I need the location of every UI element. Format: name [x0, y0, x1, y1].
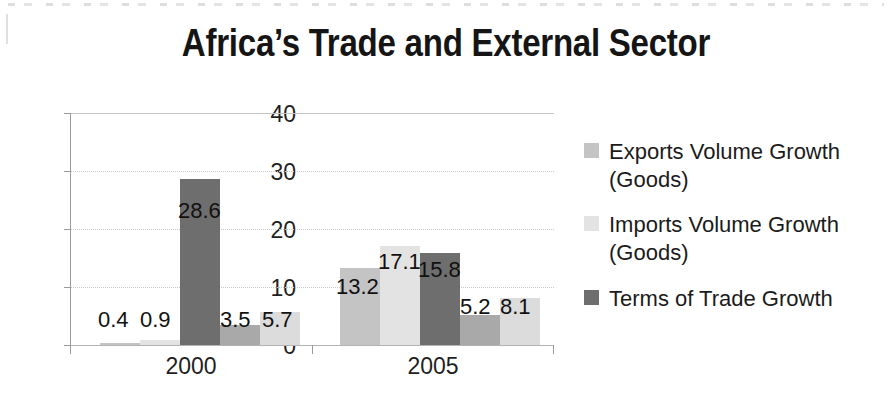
y-tick-20: [64, 229, 70, 230]
legend-label-exports: Exports Volume Growth (Goods): [609, 138, 879, 193]
bar-label-2005-series-5: 8.1: [500, 296, 531, 318]
bar-label-2005-terms: 15.8: [418, 259, 461, 281]
bar-label-2000-series-4: 3.5: [220, 309, 251, 331]
category-tick-end: [553, 345, 554, 354]
x-axis-label-2000: 2000: [70, 355, 312, 378]
legend-item-exports[interactable]: Exports Volume Growth (Goods): [584, 138, 884, 193]
category-tick-middle: [312, 345, 313, 354]
bar-label-2000-imports: 0.9: [140, 309, 171, 331]
gridline-30: [70, 171, 554, 172]
legend-swatch-icon-terms-of-trade: [584, 290, 599, 305]
chart-title: Africa’s Trade and External Sector: [58, 22, 834, 65]
y-tick-40: [64, 113, 70, 114]
gridline-20: [70, 229, 554, 230]
bar-label-2005-imports: 17.1: [378, 251, 421, 273]
y-axis-line: [70, 113, 71, 345]
bar-label-2005-exports: 13.2: [336, 276, 379, 298]
bar-chart: Africa’s Trade and External Sector 40 30…: [0, 0, 892, 408]
bar-label-2000-series-5: 5.7: [262, 309, 293, 331]
bar-label-2000-terms: 28.6: [178, 200, 221, 222]
category-tick-start: [70, 345, 71, 354]
y-tick-10: [64, 287, 70, 288]
legend-swatch-icon-imports: [584, 216, 599, 231]
legend-item-terms-of-trade[interactable]: Terms of Trade Growth: [584, 285, 884, 313]
legend-label-imports: Imports Volume Growth (Goods): [609, 211, 879, 266]
bar-2000-imports-volume-growth[interactable]: [140, 340, 180, 345]
gridline-10: [70, 287, 554, 288]
plot-area: 0.4 0.9 28.6 3.5 5.7 13.2 17.1 15.8 5.2 …: [70, 113, 554, 345]
bar-2005-series-4[interactable]: [460, 315, 500, 345]
chart-legend: Exports Volume Growth (Goods) Imports Vo…: [584, 138, 884, 331]
gridline-40: [70, 113, 554, 114]
legend-label-terms-of-trade: Terms of Trade Growth: [609, 285, 833, 313]
bar-2000-exports-volume-growth[interactable]: [100, 343, 140, 345]
legend-swatch-icon-exports: [584, 143, 599, 158]
bar-label-2005-series-4: 5.2: [460, 296, 491, 318]
bar-label-2000-exports: 0.4: [98, 309, 129, 331]
y-tick-30: [64, 171, 70, 172]
x-axis-label-2005: 2005: [312, 355, 554, 378]
legend-item-imports[interactable]: Imports Volume Growth (Goods): [584, 211, 884, 266]
